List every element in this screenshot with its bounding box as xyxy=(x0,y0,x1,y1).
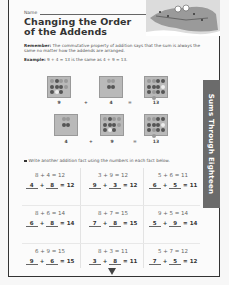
answer-sum: 11 xyxy=(190,182,198,188)
remember-note: Remember: The commutative property of ad… xyxy=(24,43,204,54)
answer-row: 9 + 6 = 15 xyxy=(19,258,81,265)
equals-sign: = xyxy=(133,139,137,144)
problem-6: 9 + 5 = 14 5 + 9 = 14 xyxy=(142,210,204,227)
equals-sign: = xyxy=(123,182,128,188)
answer-addend-b[interactable]: 6 xyxy=(46,258,58,265)
answer-row: 6 + 8 = 14 xyxy=(19,220,81,227)
answer-addend-a[interactable]: 6 xyxy=(149,182,161,189)
given-fact: 6 + 9 = 15 xyxy=(19,248,81,254)
answer-sum: 14 xyxy=(190,220,198,226)
counters-box-4 xyxy=(99,76,123,98)
equals-sign: = xyxy=(183,220,188,226)
problem-1: 8 + 4 = 12 4 + 8 = 12 xyxy=(19,172,81,189)
name-label: Name xyxy=(24,10,37,15)
counters-box-9 xyxy=(100,114,124,136)
plus-sign: + xyxy=(163,182,168,188)
example-sum: 13 xyxy=(144,139,168,144)
name-field[interactable]: Name xyxy=(24,10,150,15)
example-addend-a: 4 xyxy=(54,139,78,144)
row-divider xyxy=(22,205,200,206)
answer-sum: 12 xyxy=(130,182,138,188)
answer-row: 7 + 5 = 12 xyxy=(142,258,204,265)
plus-sign: + xyxy=(103,220,108,226)
answer-addend-a[interactable]: 4 xyxy=(26,182,38,189)
name-line[interactable] xyxy=(40,10,150,15)
equals-sign: = xyxy=(123,258,128,264)
problem-5: 8 + 7 = 15 7 + 8 = 15 xyxy=(82,210,144,227)
plus-sign: + xyxy=(103,182,108,188)
answer-addend-a[interactable]: 3 xyxy=(89,258,101,265)
answer-row: 4 + 8 = 12 xyxy=(19,182,81,189)
bullet-icon xyxy=(24,160,27,163)
equals-sign: = xyxy=(60,182,65,188)
counters-box-13 xyxy=(144,76,168,98)
side-tab-label: Sums Through Eighteen xyxy=(208,94,216,195)
example-sum: 13 xyxy=(144,100,168,105)
plus-sign: + xyxy=(40,182,45,188)
problem-4: 8 + 6 = 14 6 + 8 = 14 xyxy=(19,210,81,227)
plus-sign: + xyxy=(84,100,88,105)
answer-sum: 12 xyxy=(190,258,198,264)
answer-addend-b[interactable]: 3 xyxy=(109,182,121,189)
answer-addend-b[interactable]: 8 xyxy=(109,220,121,227)
given-fact: 8 + 3 = 11 xyxy=(82,248,144,254)
problem-2: 3 + 9 = 12 9 + 3 = 12 xyxy=(82,172,144,189)
equals-sign: = xyxy=(60,220,65,226)
plus-sign: + xyxy=(40,220,45,226)
given-fact: 5 + 6 = 11 xyxy=(142,172,204,178)
down-triangle-icon xyxy=(108,268,116,275)
answer-row: 9 + 3 = 12 xyxy=(82,182,144,189)
page-title: Changing the Order of the Addends xyxy=(24,17,131,36)
equals-sign: = xyxy=(183,182,188,188)
answer-addend-a[interactable]: 9 xyxy=(89,182,101,189)
instruction-text: Write another addition fact using the nu… xyxy=(29,158,170,163)
counters-box-9 xyxy=(47,76,71,98)
answer-sum: 15 xyxy=(67,258,75,264)
given-fact: 8 + 6 = 14 xyxy=(19,210,81,216)
alligator-illustration xyxy=(146,0,220,36)
answer-addend-b[interactable]: 5 xyxy=(169,258,181,265)
answer-addend-a[interactable]: 5 xyxy=(149,220,161,227)
example-addend-b: 9 xyxy=(100,139,124,144)
row-divider xyxy=(22,243,200,244)
answer-addend-a[interactable]: 7 xyxy=(149,258,161,265)
problem-3: 5 + 6 = 11 6 + 5 = 11 xyxy=(142,172,204,189)
example-text: 9 + 4 = 13 is the same as 4 + 9 = 13. xyxy=(46,57,128,62)
answer-addend-b[interactable]: 5 xyxy=(169,182,181,189)
plus-sign: + xyxy=(103,258,108,264)
given-fact: 5 + 7 = 12 xyxy=(142,248,204,254)
answer-row: 6 + 5 = 11 xyxy=(142,182,204,189)
plus-sign: + xyxy=(89,139,93,144)
example-addend-a: 9 xyxy=(47,100,71,105)
answer-addend-b[interactable]: 9 xyxy=(169,220,181,227)
title-line-2: of the Addends xyxy=(24,27,131,37)
answer-row: 7 + 8 = 15 xyxy=(82,220,144,227)
plus-sign: + xyxy=(163,258,168,264)
given-fact: 9 + 5 = 14 xyxy=(142,210,204,216)
example-label: Example: xyxy=(24,57,46,62)
answer-row: 5 + 9 = 14 xyxy=(142,220,204,227)
remember-label: Remember: xyxy=(24,43,51,48)
given-fact: 3 + 9 = 12 xyxy=(82,172,144,178)
answer-addend-a[interactable]: 6 xyxy=(26,220,38,227)
example-addend-b: 4 xyxy=(99,100,123,105)
equals-sign: = xyxy=(128,100,132,105)
plus-sign: + xyxy=(40,258,45,264)
answer-addend-b[interactable]: 8 xyxy=(46,182,58,189)
answer-sum: 15 xyxy=(130,220,138,226)
example-note: Example: 9 + 4 = 13 is the same as 4 + 9… xyxy=(24,57,127,62)
answer-sum: 12 xyxy=(67,182,75,188)
instruction: Write another addition fact using the nu… xyxy=(24,158,170,163)
answer-addend-a[interactable]: 9 xyxy=(26,258,38,265)
plus-sign: + xyxy=(163,220,168,226)
problem-9: 5 + 7 = 12 7 + 5 = 12 xyxy=(142,248,204,265)
equals-sign: = xyxy=(123,220,128,226)
answer-addend-b[interactable]: 8 xyxy=(46,220,58,227)
answer-addend-a[interactable]: 7 xyxy=(89,220,101,227)
equals-sign: = xyxy=(183,258,188,264)
answer-row: 3 + 8 = 11 xyxy=(82,258,144,265)
given-fact: 8 + 4 = 12 xyxy=(19,172,81,178)
counters-box-4 xyxy=(54,114,78,136)
answer-addend-b[interactable]: 8 xyxy=(109,258,121,265)
counters-box-13 xyxy=(144,114,168,136)
